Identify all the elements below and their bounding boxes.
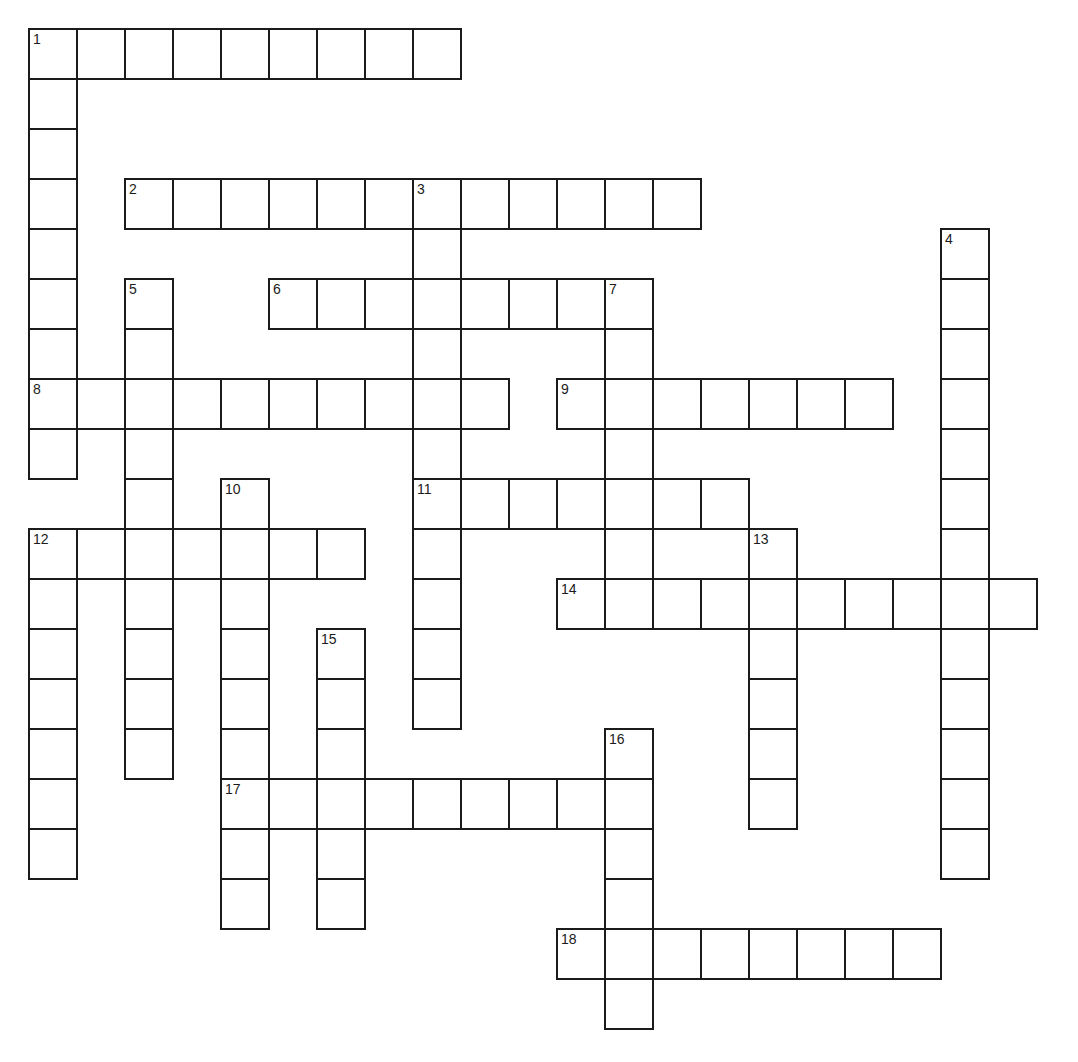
- grid-cell[interactable]: [700, 928, 750, 980]
- grid-cell[interactable]: [652, 378, 702, 430]
- grid-cell[interactable]: [556, 478, 606, 530]
- grid-cell[interactable]: [316, 678, 366, 730]
- grid-cell[interactable]: [940, 578, 990, 630]
- grid-cell[interactable]: [652, 928, 702, 980]
- grid-cell[interactable]: [556, 578, 606, 630]
- grid-cell[interactable]: [700, 378, 750, 430]
- grid-cell[interactable]: [28, 178, 78, 230]
- grid-cell[interactable]: [76, 378, 126, 430]
- grid-cell[interactable]: [28, 428, 78, 480]
- grid-cell[interactable]: [220, 178, 270, 230]
- grid-cell[interactable]: [124, 378, 174, 430]
- grid-cell[interactable]: [460, 378, 510, 430]
- grid-cell[interactable]: [316, 878, 366, 930]
- grid-cell[interactable]: [220, 528, 270, 580]
- grid-cell[interactable]: [940, 778, 990, 830]
- grid-cell[interactable]: [652, 478, 702, 530]
- grid-cell[interactable]: [604, 578, 654, 630]
- grid-cell[interactable]: [844, 378, 894, 430]
- grid-cell[interactable]: [412, 328, 462, 380]
- grid-cell[interactable]: [28, 28, 78, 80]
- grid-cell[interactable]: [364, 378, 414, 430]
- grid-cell[interactable]: [604, 528, 654, 580]
- grid-cell[interactable]: [940, 628, 990, 680]
- grid-cell[interactable]: [412, 178, 462, 230]
- grid-cell[interactable]: [28, 578, 78, 630]
- grid-cell[interactable]: [940, 828, 990, 880]
- grid-cell[interactable]: [28, 678, 78, 730]
- grid-cell[interactable]: [172, 28, 222, 80]
- grid-cell[interactable]: [124, 28, 174, 80]
- grid-cell[interactable]: [124, 428, 174, 480]
- grid-cell[interactable]: [412, 778, 462, 830]
- grid-cell[interactable]: [700, 478, 750, 530]
- grid-cell[interactable]: [268, 778, 318, 830]
- grid-cell[interactable]: [988, 578, 1038, 630]
- grid-cell[interactable]: [604, 328, 654, 380]
- grid-cell[interactable]: [364, 278, 414, 330]
- grid-cell[interactable]: [604, 978, 654, 1030]
- grid-cell[interactable]: [316, 278, 366, 330]
- grid-cell[interactable]: [748, 728, 798, 780]
- grid-cell[interactable]: [508, 178, 558, 230]
- grid-cell[interactable]: [556, 378, 606, 430]
- grid-cell[interactable]: [748, 628, 798, 680]
- grid-cell[interactable]: [604, 278, 654, 330]
- grid-cell[interactable]: [220, 28, 270, 80]
- grid-cell[interactable]: [892, 928, 942, 980]
- grid-cell[interactable]: [268, 178, 318, 230]
- grid-cell[interactable]: [508, 478, 558, 530]
- grid-cell[interactable]: [556, 278, 606, 330]
- grid-cell[interactable]: [28, 128, 78, 180]
- grid-cell[interactable]: [28, 628, 78, 680]
- grid-cell[interactable]: [124, 478, 174, 530]
- grid-cell[interactable]: [508, 778, 558, 830]
- grid-cell[interactable]: [604, 378, 654, 430]
- grid-cell[interactable]: [364, 28, 414, 80]
- grid-cell[interactable]: [748, 778, 798, 830]
- grid-cell[interactable]: [124, 578, 174, 630]
- grid-cell[interactable]: [508, 278, 558, 330]
- grid-cell[interactable]: [316, 828, 366, 880]
- grid-cell[interactable]: [940, 378, 990, 430]
- grid-cell[interactable]: [220, 678, 270, 730]
- grid-cell[interactable]: [652, 178, 702, 230]
- grid-cell[interactable]: [268, 28, 318, 80]
- grid-cell[interactable]: [940, 478, 990, 530]
- grid-cell[interactable]: [700, 578, 750, 630]
- grid-cell[interactable]: [28, 828, 78, 880]
- grid-cell[interactable]: [268, 528, 318, 580]
- grid-cell[interactable]: [604, 878, 654, 930]
- grid-cell[interactable]: [844, 578, 894, 630]
- grid-cell[interactable]: [28, 78, 78, 130]
- grid-cell[interactable]: [316, 628, 366, 680]
- grid-cell[interactable]: [844, 928, 894, 980]
- grid-cell[interactable]: [796, 578, 846, 630]
- grid-cell[interactable]: [412, 628, 462, 680]
- grid-cell[interactable]: [556, 178, 606, 230]
- grid-cell[interactable]: [124, 278, 174, 330]
- grid-cell[interactable]: [76, 528, 126, 580]
- grid-cell[interactable]: [460, 478, 510, 530]
- grid-cell[interactable]: [220, 478, 270, 530]
- grid-cell[interactable]: [652, 578, 702, 630]
- grid-cell[interactable]: [940, 678, 990, 730]
- grid-cell[interactable]: [556, 928, 606, 980]
- grid-cell[interactable]: [940, 428, 990, 480]
- grid-cell[interactable]: [124, 728, 174, 780]
- grid-cell[interactable]: [604, 728, 654, 780]
- grid-cell[interactable]: [796, 378, 846, 430]
- grid-cell[interactable]: [748, 378, 798, 430]
- grid-cell[interactable]: [268, 278, 318, 330]
- grid-cell[interactable]: [28, 528, 78, 580]
- grid-cell[interactable]: [604, 178, 654, 230]
- grid-cell[interactable]: [76, 28, 126, 80]
- grid-cell[interactable]: [460, 778, 510, 830]
- grid-cell[interactable]: [124, 328, 174, 380]
- grid-cell[interactable]: [412, 678, 462, 730]
- grid-cell[interactable]: [316, 528, 366, 580]
- grid-cell[interactable]: [28, 778, 78, 830]
- grid-cell[interactable]: [220, 778, 270, 830]
- grid-cell[interactable]: [604, 428, 654, 480]
- grid-cell[interactable]: [268, 378, 318, 430]
